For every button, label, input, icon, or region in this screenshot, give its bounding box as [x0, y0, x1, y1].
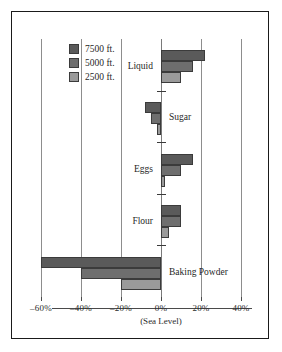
category-separator-tick [157, 142, 166, 143]
bar-sugar-5000 [151, 113, 161, 124]
legend-item-2500: 2500 ft. [69, 71, 149, 84]
bar-liquid-5000 [161, 61, 193, 72]
axis-tick-0 [161, 297, 162, 301]
bar-eggs-5000 [161, 165, 181, 176]
axis-tick-label-40: 40% [218, 303, 264, 313]
axis-tick--20 [121, 297, 122, 301]
category-label-eggs: Eggs [91, 164, 153, 174]
axis-tick--40 [81, 297, 82, 301]
sea-level-annotation: (Sea Level) [116, 316, 206, 326]
category-label-sugar: Sugar [169, 112, 191, 122]
category-separator-tick [157, 245, 166, 246]
bar-sugar-7500 [145, 102, 161, 113]
bar-liquid-2500 [161, 72, 181, 83]
chart-frame: –60%–40%–20%0%20%40% (Sea Level) LiquidS… [11, 11, 269, 339]
axis-tick--60 [41, 297, 42, 301]
bar-baking-powder-7500 [41, 257, 161, 268]
gridline-40 [241, 39, 242, 297]
bar-flour-5000 [161, 216, 181, 227]
bar-liquid-7500 [161, 50, 205, 61]
legend-label: 7500 ft. [85, 43, 115, 56]
axis-tick-40 [241, 297, 242, 301]
category-separator-tick [157, 91, 166, 92]
legend-swatch-icon [69, 58, 79, 68]
bar-eggs-2500 [161, 176, 165, 187]
legend-item-5000: 5000 ft. [69, 57, 149, 70]
legend-label: 2500 ft. [85, 71, 115, 84]
legend-label: 5000 ft. [85, 57, 115, 70]
bar-flour-7500 [161, 205, 181, 216]
legend-swatch-icon [69, 72, 79, 82]
chart-legend: 7500 ft.5000 ft.2500 ft. [69, 43, 149, 85]
bar-eggs-7500 [161, 154, 193, 165]
chart-figure: –60%–40%–20%0%20%40% (Sea Level) LiquidS… [0, 0, 282, 352]
axis-tick-20 [201, 297, 202, 301]
legend-item-7500: 7500 ft. [69, 43, 149, 56]
category-label-flour: Flour [91, 216, 153, 226]
category-label-baking-powder: Baking Powder [169, 267, 228, 277]
bar-baking-powder-2500 [121, 279, 161, 290]
gridline-20 [201, 39, 202, 297]
bar-sugar-2500 [157, 124, 161, 135]
legend-swatch-icon [69, 44, 79, 54]
category-separator-tick [157, 194, 166, 195]
bar-baking-powder-5000 [81, 268, 161, 279]
bar-flour-2500 [161, 227, 169, 238]
